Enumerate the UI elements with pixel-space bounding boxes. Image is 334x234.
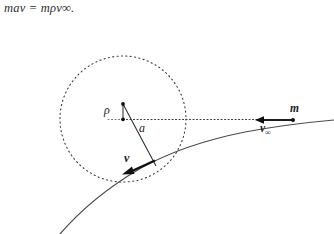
label-velocity-perihelion: v — [124, 152, 129, 164]
particle-dot — [291, 118, 295, 122]
hyperbola-trajectory — [60, 120, 334, 234]
label-mass: m — [290, 103, 299, 115]
label-velocity-infinity: v∞ — [260, 123, 271, 137]
apex-dot — [121, 102, 125, 106]
focus-dot — [121, 117, 125, 121]
label-velocity-infinity-subscript: ∞ — [265, 128, 271, 137]
figure-canvas: mav = mρv∞. ρ a v m — [0, 0, 334, 234]
scattering-diagram-svg — [0, 0, 334, 234]
label-closest-approach: a — [139, 122, 145, 134]
label-impact-parameter: ρ — [104, 104, 110, 116]
